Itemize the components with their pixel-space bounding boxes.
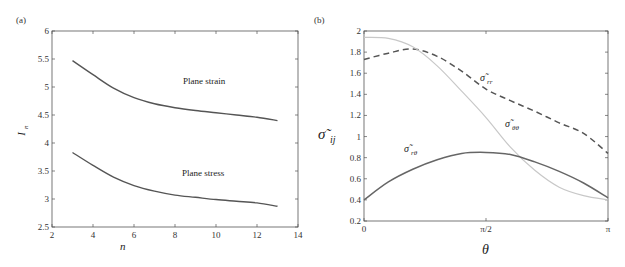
svg-text:rθ: rθ (411, 149, 418, 157)
series-line (73, 61, 278, 121)
svg-text:θθ: θθ (512, 124, 519, 132)
series-b (364, 37, 608, 200)
y-tick-label: 3 (45, 194, 50, 204)
x-tick-label: 10 (212, 230, 222, 240)
y-tick-label: 3.5 (38, 166, 50, 176)
y-tick-label: 1.2 (350, 110, 361, 120)
y-tick-label: 1.8 (350, 47, 362, 57)
y-tick-label: 2.5 (38, 222, 50, 232)
x-axis-b: 0π/2π (362, 31, 611, 234)
annotation-sigma-rtheta: σ̃ rθ (404, 143, 418, 157)
x-tick-label: 6 (132, 230, 137, 240)
series-a (73, 61, 278, 207)
figure: (a) 2468101214 2.533.544.555.56 Plane st… (0, 0, 625, 267)
panel-label-b: (b) (314, 15, 325, 25)
plot-area-a (52, 31, 298, 227)
y-axis-label-b: σ̃ ij (318, 126, 336, 145)
panel-label-a: (a) (16, 15, 26, 25)
x-tick-label: 2 (50, 230, 55, 240)
chart-b: (b) 0π/2π 0.20.40.60.811.21.41.61.82 σ̃ … (314, 15, 611, 257)
x-tick-label: 0 (362, 224, 367, 234)
annotation-sigma-rr: σ̃ rr (480, 72, 493, 86)
y-tick-label: 5 (45, 82, 50, 92)
annotation-plane-stress: Plane stress (182, 168, 225, 178)
y-axis-a: 2.533.544.555.56 (38, 26, 298, 232)
y-tick-label: 6 (45, 26, 50, 36)
svg-text:rr: rr (487, 78, 493, 86)
y-tick-label: 1.6 (350, 68, 362, 78)
y-tick-label: 0.2 (350, 216, 361, 226)
y-tick-label: 1.4 (350, 89, 362, 99)
x-tick-label: π (606, 224, 611, 234)
y-tick-label: 4 (45, 138, 50, 148)
annotation-sigma-thetatheta: σ̃ θθ (505, 118, 519, 132)
chart-a: (a) 2468101214 2.533.544.555.56 Plane st… (15, 15, 303, 252)
x-tick-label: 12 (253, 230, 262, 240)
y-axis-label-a: I n (15, 125, 30, 137)
y-tick-label: 0.8 (350, 153, 362, 163)
x-tick-label: π/2 (480, 224, 492, 234)
y-tick-label: 4.5 (38, 110, 50, 120)
y-tick-label: 5.5 (38, 54, 50, 64)
x-tick-label: 8 (173, 230, 178, 240)
x-axis-a: 2468101214 (50, 31, 303, 240)
y-tick-label: 0.4 (350, 195, 362, 205)
svg-text:n: n (22, 125, 30, 129)
svg-text:ij: ij (330, 134, 336, 145)
x-axis-label-b: θ (482, 242, 489, 257)
annotation-plane-strain: Plane strain (183, 76, 226, 86)
series-line (364, 49, 608, 154)
y-tick-label: 2 (357, 26, 362, 36)
series-line (73, 153, 278, 207)
x-axis-label-a: n (120, 240, 126, 252)
y-tick-label: 1 (357, 132, 362, 142)
x-tick-label: 14 (294, 230, 304, 240)
y-tick-label: 0.6 (350, 174, 362, 184)
x-tick-label: 4 (91, 230, 96, 240)
svg-text:I: I (15, 131, 27, 137)
